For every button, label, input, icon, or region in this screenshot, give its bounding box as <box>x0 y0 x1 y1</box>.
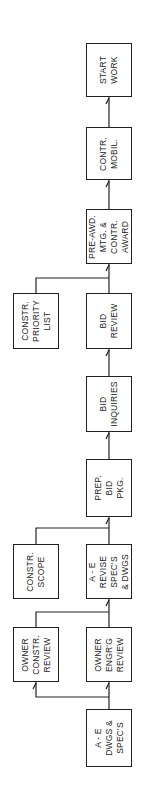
node-label: A - E DWGS & SPEC'S <box>93 720 126 756</box>
node-label: A - E REVISE SPEC'S & DWGS <box>87 554 131 590</box>
node-bid-inquiries: BID INQUIRIES <box>86 376 132 432</box>
node-label: OWNER ENGR'G REVIEW <box>93 637 126 672</box>
node-label: BID INQUIRIES <box>98 381 120 426</box>
node-constr-priority-list: CONSTR. PRIORITY LIST <box>13 293 59 349</box>
node-label: CONSTR. SCOPE <box>25 552 47 592</box>
node-owner-constr-review: OWNER CONSTR. REVIEW <box>13 627 59 682</box>
node-contr-mobil: CONTR. MOBIL. <box>86 127 132 180</box>
node-constr-scope: CONSTR. SCOPE <box>13 544 59 599</box>
node-label: BID REVIEW <box>98 304 120 339</box>
node-label: PRE-AWD. MTG. & CONTR. AWARD <box>87 215 131 259</box>
node-ae-dwgs-specs: A - E DWGS & SPEC'S <box>86 709 132 767</box>
node-label: PREP. BID PKG. <box>93 475 126 500</box>
node-label: OWNER CONSTR. REVIEW <box>20 635 53 675</box>
node-start-work: START WORK <box>86 43 132 97</box>
node-bid-review: BID REVIEW <box>86 293 132 349</box>
node-label: CONSTR. PRIORITY LIST <box>20 300 53 342</box>
node-owner-engrg-review: OWNER ENGR'G REVIEW <box>86 627 132 682</box>
node-pre-award: PRE-AWD. MTG. & CONTR. AWARD <box>86 209 132 264</box>
node-label: CONTR. MOBIL. <box>98 137 120 171</box>
node-ae-revise-specs-dwgs: A - E REVISE SPEC'S & DWGS <box>86 544 132 599</box>
node-prep-bid-pkg: PREP. BID PKG. <box>86 459 132 517</box>
node-label: START WORK <box>98 56 120 84</box>
